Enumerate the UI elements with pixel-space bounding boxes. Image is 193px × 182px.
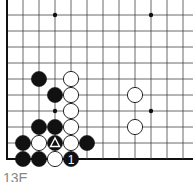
- stones: 1: [15, 71, 142, 166]
- star-point: [53, 109, 57, 113]
- go-board: 1: [0, 0, 193, 182]
- black-stone: [79, 135, 94, 150]
- black-stone: [47, 87, 62, 102]
- star-point: [149, 13, 153, 17]
- black-stone: [15, 151, 30, 166]
- white-stone: [47, 151, 62, 166]
- black-stone: [31, 71, 46, 86]
- white-stone: [63, 103, 78, 118]
- black-stone: [47, 119, 62, 134]
- diagram-caption: 13E: [3, 171, 28, 182]
- white-stone: [63, 119, 78, 134]
- white-stone: [31, 135, 46, 150]
- stone-move-number: 1: [68, 153, 75, 167]
- white-stone: [127, 87, 142, 102]
- white-stone: [63, 87, 78, 102]
- white-stone: [63, 135, 78, 150]
- star-point: [53, 13, 57, 17]
- black-stone: [31, 119, 46, 134]
- white-stone: [63, 71, 78, 86]
- black-stone: [15, 135, 30, 150]
- star-point: [149, 109, 153, 113]
- white-stone: [127, 119, 142, 134]
- black-stone: [31, 151, 46, 166]
